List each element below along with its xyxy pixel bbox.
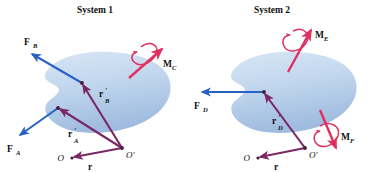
point-D-dot xyxy=(262,90,266,94)
force-FD-label-subscript: D xyxy=(202,106,208,113)
system-2-title: System 2 xyxy=(254,5,290,15)
force-FD-label-text: F xyxy=(194,101,200,111)
force-FB-label-subscript: B xyxy=(32,42,38,49)
position-rA-prime-mark: ′ xyxy=(74,127,76,136)
position-rA-prime-label-subscript: A xyxy=(73,137,79,144)
position-r-vector xyxy=(74,148,122,157)
point-O-label-text: O xyxy=(58,153,65,163)
statics-equivalent-systems-diagram: System 1 F B F A r ′ xyxy=(0,0,370,173)
position-rB-prime-label-subscript: B xyxy=(104,97,110,104)
force-FD-label: F D xyxy=(194,101,208,113)
force-FA-vector xyxy=(20,108,58,135)
force-FB-label: F B xyxy=(24,37,38,49)
point-O-label-text-2: O xyxy=(244,153,251,163)
position-rD-prime-mark: ′ xyxy=(278,114,280,123)
point-O-dot-2 xyxy=(256,156,259,159)
point-O-prime-label-text: O' xyxy=(126,150,135,160)
system-1-title: System 1 xyxy=(77,5,113,15)
figure-root: System 1 F B F A r ′ xyxy=(0,0,370,173)
force-FA-label: F A xyxy=(7,144,21,156)
moment-MF-label-text: M xyxy=(341,132,350,142)
position-rD-prime-label-subscript: D xyxy=(277,124,283,131)
moment-MF-label-subscript: F xyxy=(350,137,355,144)
moment-MC-label-text: M xyxy=(163,59,172,69)
force-FB-label-text: F xyxy=(24,37,30,47)
system-2-group: System 2 F D r ′ D r xyxy=(194,5,356,172)
position-r-label-text: r xyxy=(88,162,93,172)
moment-ME-label-text: M xyxy=(315,30,324,40)
system-1-group: System 1 F B F A r ′ xyxy=(7,5,177,172)
force-FA-label-subscript: A xyxy=(15,149,21,156)
position-r-label-text-2: r xyxy=(274,162,279,172)
point-O-prime-dot-2 xyxy=(303,146,307,150)
position-rB-prime-mark: ′ xyxy=(105,87,107,96)
point-A-dot xyxy=(56,106,60,110)
point-B-dot xyxy=(80,81,84,85)
point-O-dot xyxy=(70,156,73,159)
moment-ME-label-subscript: E xyxy=(323,35,329,42)
force-FA-label-text: F xyxy=(7,144,13,154)
point-O-prime-dot xyxy=(120,146,124,150)
point-O-prime-label: O' xyxy=(126,150,135,160)
position-r-vector-2 xyxy=(260,148,305,157)
moment-MC-label-subscript: C xyxy=(172,64,177,71)
rigid-body-1 xyxy=(45,52,171,133)
point-O-prime-label-text-2: O' xyxy=(309,150,318,160)
